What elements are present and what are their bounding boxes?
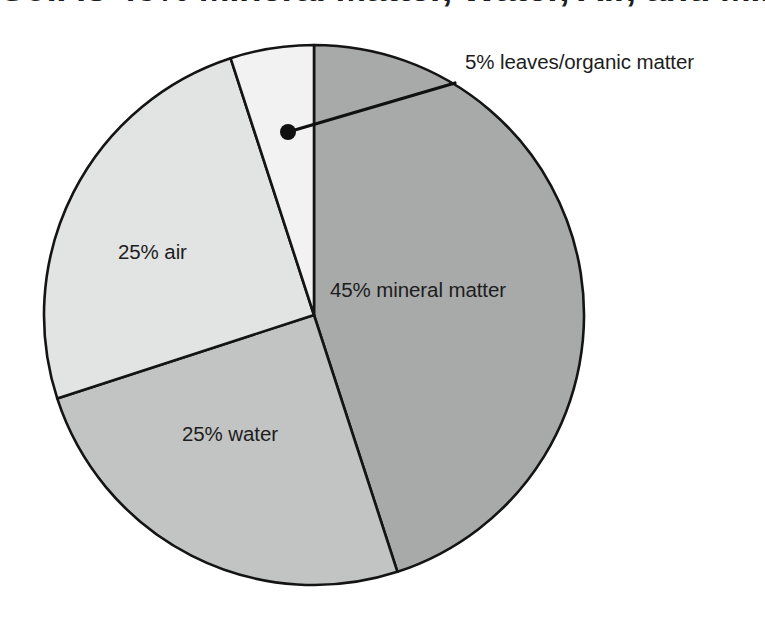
leader-dot: [280, 124, 296, 140]
pie-chart-figure: Soil is 45% Mineral Matter, Water, Air, …: [0, 0, 765, 620]
slice-label-mineral-matter: 45% mineral matter: [330, 278, 506, 301]
slice-label-leaves-organic-matter: 5% leaves/organic matter: [465, 50, 694, 73]
pie-chart-svg: 45% mineral matter 25% water 25% air 5% …: [0, 0, 765, 620]
slice-label-air: 25% air: [118, 240, 187, 263]
slice-label-water: 25% water: [182, 422, 278, 445]
